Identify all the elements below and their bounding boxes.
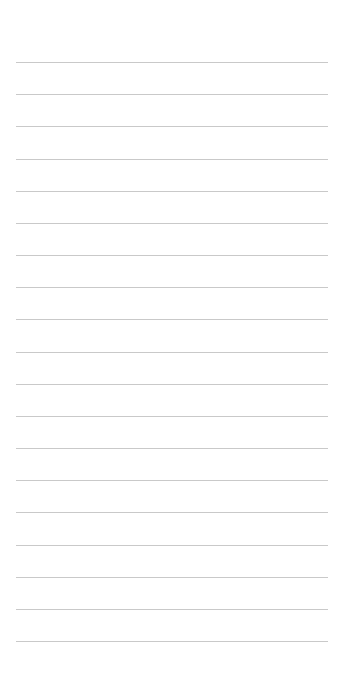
ruled-line (16, 512, 328, 513)
lined-paper-page (0, 0, 348, 684)
ruled-line (16, 641, 328, 642)
ruled-line (16, 126, 328, 127)
ruled-line (16, 62, 328, 63)
ruled-line (16, 480, 328, 481)
ruled-line (16, 545, 328, 546)
ruled-line (16, 255, 328, 256)
ruled-line (16, 416, 328, 417)
ruled-line (16, 448, 328, 449)
ruled-line (16, 191, 328, 192)
ruled-line (16, 287, 328, 288)
ruled-line (16, 223, 328, 224)
ruled-line (16, 609, 328, 610)
ruled-line (16, 577, 328, 578)
ruled-line (16, 384, 328, 385)
ruled-line (16, 94, 328, 95)
ruled-line (16, 159, 328, 160)
ruled-line (16, 352, 328, 353)
ruled-line (16, 319, 328, 320)
